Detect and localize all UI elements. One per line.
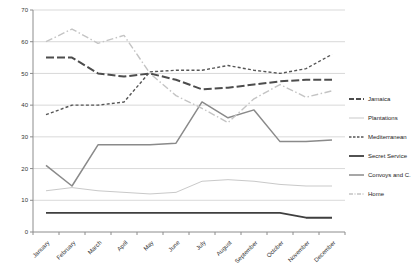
y-tick-label-20: 20 [21, 166, 28, 172]
chart-figure: 010203040506070JanuaryFebruaryMarchApril… [0, 0, 419, 271]
legend-label-mediterranean: Mediterranean [368, 134, 407, 140]
legend-label-jamaica: Jamaica [368, 96, 390, 102]
legend-item-jamaica: Jamaica [349, 96, 411, 102]
legend-label-plantations: Plantations [368, 115, 398, 121]
legend-item-plantations: Plantations [349, 115, 411, 121]
x-tick-label-june: June [167, 239, 181, 253]
x-tick-label-january: January [31, 239, 50, 258]
y-tick-label-60: 60 [21, 39, 28, 45]
series-line-convoys-and-c [46, 102, 332, 186]
x-tick-label-august: August [215, 239, 233, 257]
legend-item-mediterranean: Mediterranean [349, 134, 411, 140]
legend-line-sample-plantations [349, 115, 364, 121]
legend-item-secret-service: Secret Service [349, 153, 411, 159]
x-tick-label-may: May [142, 239, 154, 251]
y-tick-label-10: 10 [21, 197, 28, 203]
x-tick-label-september: September [234, 239, 259, 264]
legend-line-sample-home [349, 191, 364, 197]
legend-line-sample-convoys-and-c [349, 172, 364, 178]
x-tick-label-february: February [55, 239, 76, 260]
y-tick-label-70: 70 [21, 7, 28, 13]
legend-label-home: Home [368, 191, 384, 197]
x-tick-label-october: October [265, 239, 284, 258]
y-tick-label-40: 40 [21, 102, 28, 108]
legend-label-convoys-and-c: Convoys and C. [368, 172, 411, 178]
legend-line-sample-secret-service [349, 153, 364, 159]
chart-legend: JamaicaPlantationsMediterraneanSecret Se… [349, 96, 411, 197]
legend-label-secret-service: Secret Service [368, 153, 407, 159]
series-line-plantations [46, 180, 332, 194]
y-tick-label-0: 0 [25, 229, 29, 235]
series-line-home [46, 29, 332, 123]
x-tick-label-march: March [87, 239, 103, 255]
legend-item-home: Home [349, 191, 411, 197]
x-tick-label-april: April [116, 239, 129, 252]
series-line-secret-service [46, 213, 332, 218]
legend-line-sample-jamaica [349, 96, 364, 102]
legend-line-sample-mediterranean [349, 134, 364, 140]
y-tick-label-50: 50 [21, 71, 28, 77]
y-tick-label-30: 30 [21, 134, 28, 140]
x-tick-label-november: November [287, 239, 311, 263]
x-tick-label-december: December [313, 239, 337, 263]
x-tick-label-july: July [195, 239, 207, 251]
legend-item-convoys-and-c: Convoys and C. [349, 172, 411, 178]
